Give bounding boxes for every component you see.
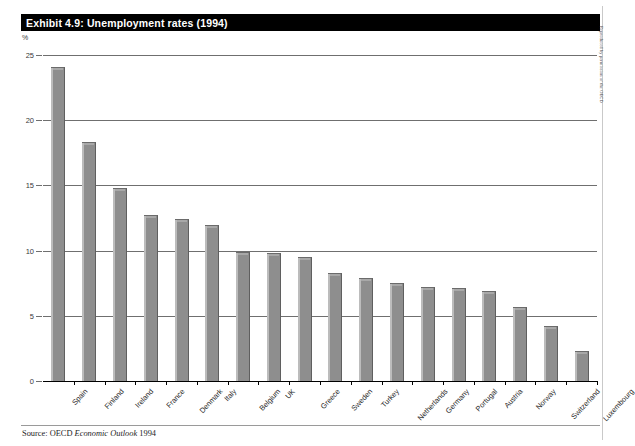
x-axis-category-label: France bbox=[164, 387, 186, 410]
x-axis-category-label: Spain bbox=[70, 387, 89, 407]
x-axis-category-label: Netherlands bbox=[416, 387, 450, 422]
x-axis-category-label: Luxembourg bbox=[601, 387, 635, 423]
permission-credit: Reproduced by permission of the OECD bbox=[599, 26, 604, 146]
x-axis-category-label: UK bbox=[283, 387, 297, 401]
y-axis-tick-label: 0 bbox=[30, 377, 34, 386]
source-prefix: Source: OECD bbox=[22, 429, 72, 438]
x-axis-category-label: Portugal bbox=[473, 387, 498, 413]
x-axis-category-label: Ireland bbox=[133, 387, 155, 410]
source-note: Source: OECD Economic Outlook 1994 bbox=[22, 429, 156, 438]
x-axis-category-label: Denmark bbox=[197, 387, 224, 415]
y-axis-tick-label: 25 bbox=[26, 51, 34, 60]
y-axis-tick-label: 20 bbox=[26, 116, 34, 125]
x-axis-labels: SpainFinlandIrelandFranceDenmarkItalyBel… bbox=[43, 0, 597, 446]
source-publication: Economic Outlook bbox=[75, 429, 138, 438]
x-axis-category-label: Italy bbox=[223, 387, 239, 403]
x-axis-category-label: Greece bbox=[318, 387, 341, 411]
y-axis-tick-mark bbox=[36, 185, 42, 186]
source-divider bbox=[21, 425, 600, 426]
source-year: 1994 bbox=[139, 429, 156, 438]
x-axis-category-label: Belgium bbox=[258, 387, 283, 413]
y-axis-tick-mark bbox=[36, 316, 42, 317]
y-axis-tick-label: 10 bbox=[26, 246, 34, 255]
y-axis-tick-mark bbox=[36, 55, 42, 56]
exhibit-page: Exhibit 4.9: Unemployment rates (1994) %… bbox=[0, 0, 635, 446]
y-axis-tick-mark bbox=[36, 251, 42, 252]
x-axis-category-label: Turkey bbox=[379, 387, 401, 409]
y-axis-unit-label: % bbox=[22, 34, 28, 41]
y-axis-tick-label: 15 bbox=[26, 181, 34, 190]
x-axis-tick-mark bbox=[597, 381, 598, 385]
x-axis-category-label: Norway bbox=[534, 387, 558, 411]
x-axis-category-label: Sweden bbox=[350, 387, 375, 413]
x-axis-category-label: Austria bbox=[503, 387, 525, 410]
y-axis-tick-label: 5 bbox=[30, 311, 34, 320]
x-axis-category-label: Finland bbox=[103, 387, 126, 411]
x-axis-category-label: Switzerland bbox=[569, 387, 602, 421]
y-axis-tick-mark bbox=[36, 381, 42, 382]
y-axis-tick-mark bbox=[36, 120, 42, 121]
